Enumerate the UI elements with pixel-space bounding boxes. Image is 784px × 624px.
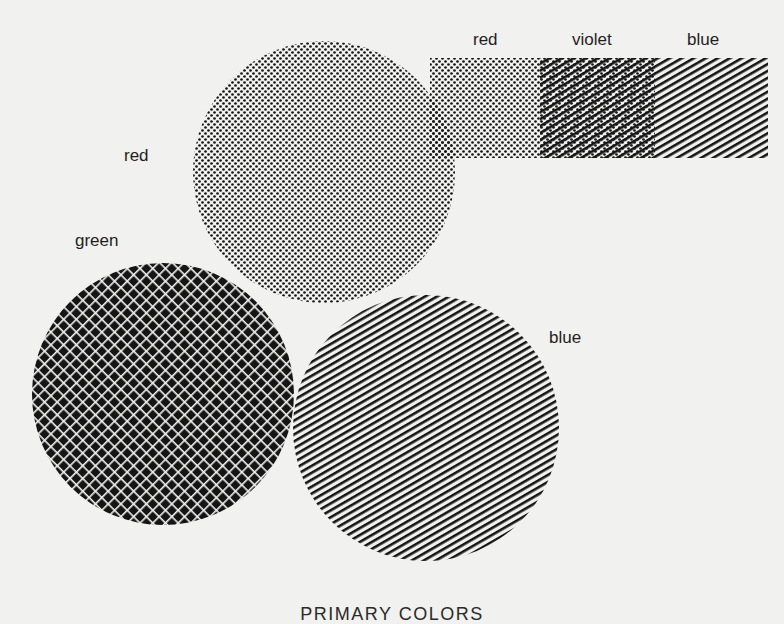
bar-segment-red bbox=[430, 58, 540, 158]
green-circle bbox=[32, 263, 294, 525]
label-bar-violet: violet bbox=[572, 30, 612, 50]
bar-segment-blue bbox=[655, 58, 768, 158]
label-bar-blue: blue bbox=[687, 30, 719, 50]
label-red-circle: red bbox=[124, 146, 149, 166]
label-green-circle: green bbox=[75, 231, 118, 251]
diagram-title: PRIMARY COLORS bbox=[0, 604, 784, 624]
label-bar-red: red bbox=[473, 30, 498, 50]
bar-segment-violet bbox=[540, 58, 655, 158]
blue-circle bbox=[293, 295, 559, 561]
label-blue-circle: blue bbox=[549, 328, 581, 348]
color-mixing-bar bbox=[430, 58, 768, 158]
red-circle bbox=[193, 41, 455, 303]
